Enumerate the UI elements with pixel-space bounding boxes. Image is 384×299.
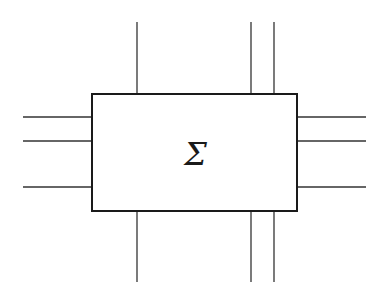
top-port-lines xyxy=(137,22,274,94)
right-port-lines xyxy=(297,117,366,187)
block-diagram: Σ xyxy=(0,0,384,299)
bottom-port-lines xyxy=(137,211,274,282)
sigma-label: Σ xyxy=(183,135,207,173)
left-port-lines xyxy=(23,117,92,187)
